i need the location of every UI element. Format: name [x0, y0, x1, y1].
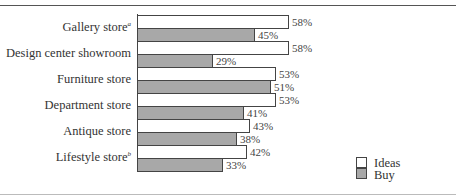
category-label: Furniture store	[57, 72, 131, 86]
value-label-buy: 45%	[258, 29, 278, 41]
value-label-ideas: 43%	[253, 120, 273, 132]
category-label-text: Furniture store	[57, 72, 131, 86]
footnote-marker: a	[128, 20, 132, 28]
bar-buy	[137, 54, 213, 68]
value-label-ideas: 42%	[250, 146, 270, 158]
bar-buy	[137, 158, 223, 172]
bar-ideas	[137, 67, 276, 81]
bar-buy	[137, 28, 255, 42]
bottom-rule	[0, 194, 456, 195]
value-label-buy: 51%	[274, 81, 294, 93]
category-label: Design center showroom	[6, 46, 131, 60]
value-label-buy: 41%	[247, 107, 267, 119]
bar-ideas	[137, 15, 289, 29]
legend-label-buy: Buy	[374, 169, 395, 181]
bar-ideas	[137, 145, 247, 159]
value-label-ideas: 53%	[279, 68, 299, 80]
bar-ideas	[137, 93, 276, 107]
value-label-buy: 33%	[226, 159, 246, 171]
category-label-text: Department store	[45, 98, 131, 112]
top-rule	[0, 5, 456, 6]
bar-buy	[137, 132, 237, 146]
legend-swatch-ideas	[356, 157, 367, 168]
value-label-buy: 29%	[216, 55, 236, 67]
value-label-ideas: 58%	[292, 16, 312, 28]
category-label-text: Antique store	[63, 124, 131, 138]
value-label-ideas: 53%	[279, 94, 299, 106]
legend-swatch-buy	[356, 168, 367, 179]
category-label-text: Design center showroom	[6, 46, 131, 60]
category-label: Lifestyle storeb	[56, 150, 131, 164]
footnote-marker: b	[128, 150, 132, 158]
bar-buy	[137, 80, 271, 94]
category-label-text: Gallery store	[63, 20, 128, 34]
value-label-ideas: 58%	[292, 42, 312, 54]
category-label: Gallery storea	[63, 20, 131, 34]
value-label-buy: 38%	[240, 133, 260, 145]
bar-buy	[137, 106, 244, 120]
category-label: Department store	[45, 98, 131, 112]
bar-ideas	[137, 41, 289, 55]
category-label: Antique store	[63, 124, 131, 138]
category-label-text: Lifestyle store	[56, 150, 128, 164]
bar-ideas	[137, 119, 250, 133]
